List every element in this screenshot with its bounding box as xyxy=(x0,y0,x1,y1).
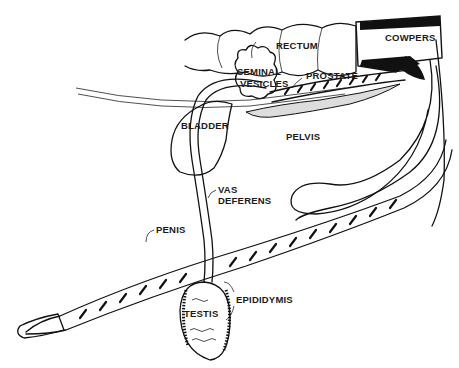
label-epididymis: EPIDIDYMIS xyxy=(236,294,293,305)
label-vas-deferens-line1: VAS xyxy=(218,184,237,195)
label-rectum: RECTUM xyxy=(276,40,318,51)
vas-deferens-shape xyxy=(190,79,266,282)
label-bladder: BLADDER xyxy=(181,120,229,131)
reproductive-tract-diagram: RECTUM COWPERS SEMINAL VESICLES PROSTATE… xyxy=(0,0,459,368)
label-pelvis: PELVIS xyxy=(286,131,320,142)
label-prostate: PROSTATE xyxy=(306,70,358,81)
label-penis: PENIS xyxy=(156,224,186,235)
label-seminal-vesicles-line1: SEMINAL xyxy=(237,66,281,77)
body-wall-line xyxy=(432,40,444,226)
label-vas-deferens-line2: DEFERENS xyxy=(218,195,271,206)
cowpers-gland-shape xyxy=(356,16,442,80)
pelvis-shape xyxy=(246,84,400,117)
label-testis: TESTIS xyxy=(184,308,218,319)
label-seminal-vesicles-line2: VESICLES xyxy=(240,78,289,89)
label-cowpers: COWPERS xyxy=(385,32,436,43)
testis-shape xyxy=(180,282,230,360)
